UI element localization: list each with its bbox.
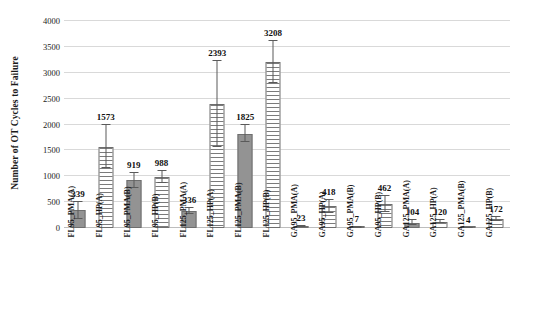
x-axis-tick-label: GA125_HP(B) (482, 230, 510, 244)
x-axis-tick-label: GA125_PMA(A) (399, 230, 427, 244)
y-axis-tick-labels: 05001000150020002500300035004000 (22, 21, 60, 228)
error-bar-cap-upper (129, 172, 138, 173)
x-axis-tick-label-text: GA95_PMA(B) (345, 184, 354, 237)
error-bar (328, 200, 329, 213)
x-axis-tick-label: FL95_HP(B) (148, 230, 176, 244)
x-axis-tick-label: FL95_PMA(B) (120, 230, 148, 244)
x-axis-tick-label: GA95_PMA(B) (343, 230, 371, 244)
y-axis-tick-label: 3500 (30, 42, 60, 52)
error-bar-cap-upper (213, 60, 222, 61)
x-axis-tick-label-text: GA95_HP(A) (317, 191, 326, 237)
error-bar (77, 202, 78, 219)
error-bar (133, 173, 134, 187)
chart-figure: Number of OT Cycles to Failure 050010001… (0, 0, 535, 322)
error-bar (245, 125, 246, 143)
error-bar-cap-lower (213, 146, 222, 147)
x-axis-tick-label: FL125_HP(A) (203, 230, 231, 244)
y-axis-title-text: Number of OT Cycles to Failure (10, 56, 20, 190)
x-axis-tick-label-text: GA95_PMA(A) (290, 184, 299, 237)
error-bar (384, 196, 385, 213)
error-bar (105, 125, 106, 168)
error-bar (217, 61, 218, 147)
x-axis-tick-label: GA95_PMA(A) (287, 230, 315, 244)
y-axis-tick-label: 4000 (30, 16, 60, 26)
x-axis-tick-label-text: FL95_PMA(B) (122, 186, 131, 237)
bar-value-label: 2393 (208, 48, 226, 58)
x-axis-tick-label-text: GA125_PMA(B) (457, 180, 466, 237)
x-axis-tick-label-text: GA125_HP(A) (429, 187, 438, 237)
y-axis-tick-label: 1500 (30, 145, 60, 155)
x-axis-tick-label-text: FL125_HP(A) (206, 189, 215, 237)
bar-value-label: 1573 (97, 112, 115, 122)
error-bar-cap-lower (241, 141, 250, 142)
bar-value-label: 3208 (264, 28, 282, 38)
bar-value-label: 1825 (236, 112, 254, 122)
error-bar-cap-lower (101, 167, 110, 168)
x-axis-tick-label: GA95_HP(B) (371, 230, 399, 244)
error-bar-cap-lower (157, 182, 166, 183)
x-axis-tick-label: FL95_HP(A) (92, 230, 120, 244)
x-axis-tick-labels: FL95_PMA(A)FL95_HP(A)FL95_PMA(B)FL95_HP(… (64, 230, 510, 320)
bar-value-label: 4 (466, 215, 471, 225)
x-axis-tick-label-text: FL125_PMA(A) (178, 181, 187, 237)
x-axis-tick-label: FL125_PMA(A) (176, 230, 204, 244)
y-axis-tick-label: 3000 (30, 68, 60, 78)
x-axis-tick-label-text: FL125_PMA(B) (234, 182, 243, 237)
bar-value-label: 919 (127, 160, 141, 170)
error-bar-cap-lower (269, 82, 278, 83)
x-axis-tick-label: GA95_HP(A) (315, 230, 343, 244)
error-bar (273, 41, 274, 82)
error-bar-cap-upper (269, 40, 278, 41)
y-axis-tick-label: 2500 (30, 94, 60, 104)
x-axis-tick-label-text: FL95_HP(B) (150, 193, 159, 237)
bar-value-label: 988 (155, 158, 169, 168)
error-bar-cap-upper (241, 124, 250, 125)
x-axis-tick-label: FL125_PMA(B) (231, 230, 259, 244)
y-axis-tick-label: 1000 (30, 171, 60, 181)
x-axis-tick-label: GA125_HP(A) (426, 230, 454, 244)
x-axis-tick-label-text: FL95_HP(A) (94, 193, 103, 237)
x-axis-tick-label-text: FL95_PMA(A) (67, 185, 76, 237)
x-axis-tick-label-text: GA125_PMA(A) (401, 180, 410, 237)
x-axis-tick-label: GA125_PMA(B) (454, 230, 482, 244)
x-axis-tick-label-text: GA125_HP(B) (485, 187, 494, 237)
y-axis-tick-label: 2000 (30, 120, 60, 130)
error-bar-cap-upper (101, 124, 110, 125)
y-axis-tick-label: 500 (30, 197, 60, 207)
x-axis-tick-label: FL95_PMA(A) (64, 230, 92, 244)
error-bar-cap-upper (157, 170, 166, 171)
y-axis-tick-label: 0 (30, 223, 60, 233)
x-axis-tick-label: FL125_HP(B) (259, 230, 287, 244)
x-axis-tick-label-text: GA95_HP(B) (373, 191, 382, 237)
bar-value-label: 7 (354, 214, 359, 224)
x-axis-tick-label-text: FL125_HP(B) (262, 189, 271, 237)
